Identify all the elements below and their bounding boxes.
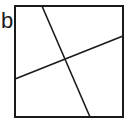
diagram-canvas — [0, 0, 128, 121]
square-outline — [15, 6, 123, 117]
shallow-line — [15, 36, 123, 79]
steep-line — [42, 6, 90, 117]
